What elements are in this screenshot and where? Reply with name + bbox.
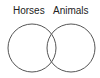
circle-horses bbox=[8, 24, 56, 72]
venn-circles bbox=[0, 0, 100, 78]
circle-animals bbox=[47, 24, 95, 72]
